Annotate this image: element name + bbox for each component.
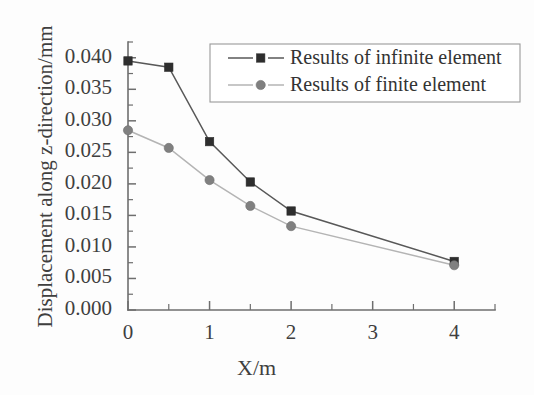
chart-figure: 0.0000.0050.0100.0150.0200.0250.0300.035… [0,0,534,395]
x-tick-label-0: 0 [108,320,148,345]
y-axis-title: Displacement along z-direction/mm [33,28,58,328]
marker-infinite-element-3 [246,178,254,186]
x-tick-marks [128,301,495,310]
marker-finite-element-3 [246,201,255,210]
marker-infinite-element-0 [124,57,132,65]
series-line-finite-element [128,130,454,265]
legend-marker-finite-element [256,80,265,89]
x-tick-label-3: 3 [353,320,393,345]
legend-label-infinite-element: Results of infinite element [290,46,502,69]
marker-finite-element-0 [123,126,132,135]
marker-finite-element-4 [287,222,296,231]
x-tick-label-2: 2 [271,320,311,345]
x-tick-label-4: 4 [434,320,474,345]
marker-infinite-element-1 [165,63,173,71]
legend-marker-infinite-element [257,54,265,62]
x-axis-title: X/m [237,355,276,381]
marker-infinite-element-4 [287,207,295,215]
y-tick-marks [128,42,136,310]
x-tick-label-1: 1 [190,320,230,345]
marker-infinite-element-2 [205,137,213,145]
marker-finite-element-2 [205,176,214,185]
legend-label-finite-element: Results of finite element [290,73,486,96]
marker-finite-element-5 [450,261,459,270]
marker-finite-element-1 [164,143,173,152]
